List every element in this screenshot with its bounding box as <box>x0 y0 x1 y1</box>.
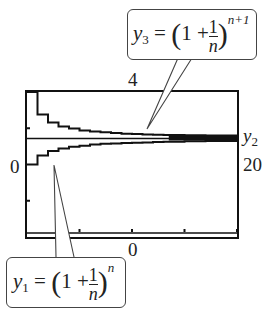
y1-formula: y1 = (1 +1n)n <box>13 260 114 303</box>
y3-curve <box>27 92 237 136</box>
y3-formula: y3 = (1 +1n)n+1 <box>133 12 250 55</box>
y2-label: y2 <box>243 126 258 148</box>
y1-curve <box>27 141 237 165</box>
y1-callout-pointer <box>54 165 74 257</box>
y3-callout-pointer <box>147 58 192 129</box>
xmax-label: 20 <box>243 155 262 174</box>
ymin-label: 0 <box>128 240 138 259</box>
xmin-label: 0 <box>10 157 20 176</box>
ymax-label: 4 <box>128 70 138 89</box>
